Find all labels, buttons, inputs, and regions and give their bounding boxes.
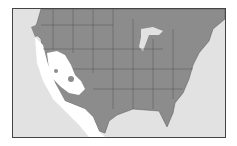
map-frame bbox=[12, 8, 226, 138]
range-patch bbox=[68, 76, 74, 82]
range-patch bbox=[54, 69, 58, 73]
range-map bbox=[13, 9, 225, 137]
